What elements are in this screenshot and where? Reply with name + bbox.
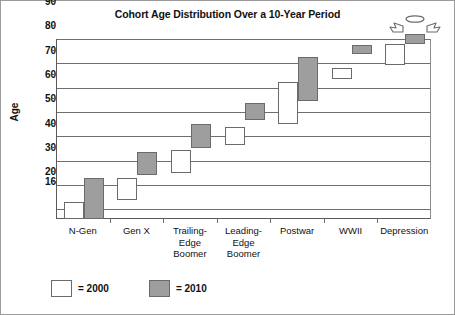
box-2000-gen-x — [117, 178, 137, 200]
x-axis-labels: N-GenGen XTrailing-EdgeBoomerLeading-Edg… — [56, 225, 431, 271]
chart-figure: Cohort Age Distribution Over a 10-Year P… — [0, 0, 455, 315]
x-axis-label-line: Postwar — [280, 225, 314, 237]
x-axis-label-line: Edge — [225, 237, 262, 249]
legend-item-gray: = 2010 — [149, 280, 207, 297]
x-axis-label-line: Leading- — [225, 225, 262, 237]
x-axis-label-line: Gen X — [123, 225, 150, 237]
box-2000-n-gen — [64, 202, 84, 219]
y-axis-ticks: 162030405060708090 — [1, 1, 56, 181]
x-axis-label-line: Trailing- — [173, 225, 207, 237]
x-tick-mark — [110, 219, 111, 223]
box-2010-gen-x — [137, 152, 157, 175]
gridline — [57, 209, 430, 210]
x-axis-label-gen-x: Gen X — [123, 225, 150, 237]
box-2000-depression — [385, 44, 405, 65]
page-title: Cohort Age Distribution Over a 10-Year P… — [1, 8, 454, 20]
x-axis-label-line: WWII — [339, 225, 362, 237]
box-2010-n-gen — [84, 178, 104, 219]
x-axis-ticks — [56, 219, 431, 224]
y-tick-mark — [52, 25, 56, 26]
x-tick-mark — [377, 219, 378, 223]
box-2010-postwar — [298, 57, 318, 101]
box-2000-wwii — [332, 68, 352, 79]
legend-label: = 2000 — [78, 283, 109, 294]
x-axis-label-n-gen: N-Gen — [69, 225, 97, 237]
legend-item-white: = 2000 — [51, 280, 109, 297]
legend-swatch-gray — [149, 280, 170, 297]
gridline — [57, 63, 430, 64]
legend-label: = 2010 — [176, 283, 207, 294]
x-axis-label-line: Edge — [173, 237, 207, 249]
legend-swatch-white — [51, 280, 72, 297]
box-2010-wwii — [352, 45, 372, 54]
x-axis-label-line: Depression — [380, 225, 428, 237]
box-2000-leading-edge-boomer — [225, 127, 245, 145]
box-2010-leading-edge-boomer — [245, 103, 265, 120]
plot-area — [56, 39, 431, 219]
x-axis-label-wwii: WWII — [339, 225, 362, 237]
gridline — [57, 112, 430, 113]
box-2010-trailing-edge-boomer — [191, 124, 211, 148]
x-axis-label-line: Boomer — [225, 248, 262, 260]
x-axis-label-line: N-Gen — [69, 225, 97, 237]
x-axis-label-trailing-: Trailing-EdgeBoomer — [173, 225, 207, 260]
x-axis-label-line: Boomer — [173, 248, 207, 260]
gridline — [57, 88, 430, 89]
x-axis-label-depression: Depression — [380, 225, 428, 237]
x-tick-mark — [324, 219, 325, 223]
gridline — [57, 39, 430, 40]
x-axis-label-leading-: Leading-EdgeBoomer — [225, 225, 262, 260]
gridline — [57, 185, 430, 186]
x-axis-label-postwar: Postwar — [280, 225, 314, 237]
x-tick-mark — [270, 219, 271, 223]
x-tick-mark — [163, 219, 164, 223]
box-2010-depression — [405, 34, 425, 44]
y-tick-mark — [52, 1, 56, 2]
box-2000-trailing-edge-boomer — [171, 150, 191, 173]
chart-legend: = 2000= 2010 — [51, 280, 207, 297]
x-tick-mark — [217, 219, 218, 223]
gridline — [57, 161, 430, 162]
box-2000-postwar — [278, 82, 298, 125]
